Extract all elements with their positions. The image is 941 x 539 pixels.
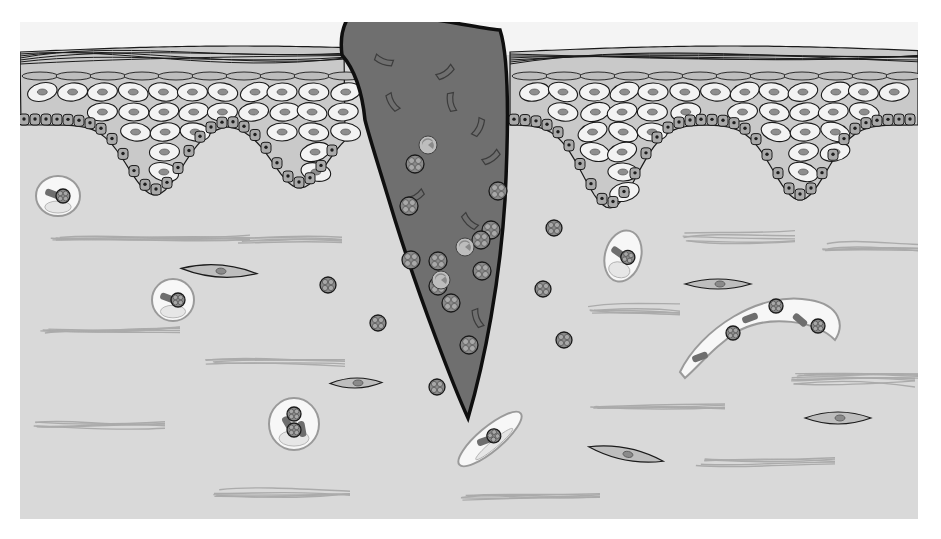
vacuole [160,305,185,318]
neutrophil-lobe [481,240,487,246]
neutrophil [370,315,386,331]
basal-nucleus [143,183,146,186]
basal-nucleus [319,164,322,167]
basal-nucleus [545,123,548,126]
basal-nucleus [644,151,647,154]
granular-cell [784,72,820,80]
neutrophil-lobe [771,306,776,311]
basal-nucleus [567,143,570,146]
neutrophil [429,252,447,270]
neutrophil-lobe [728,333,733,338]
neutrophil-lobe [173,295,178,300]
basal-nucleus [88,121,91,124]
macrophage [152,279,194,321]
keratinocyte-nucleus [97,89,107,95]
neutrophil-lobe [63,191,68,196]
keratinocyte-nucleus [771,129,781,135]
basal-nucleus [264,146,267,149]
neutrophil [320,277,336,293]
basal-nucleus [99,127,102,130]
keratinocyte-nucleus [128,89,138,95]
basal-nucleus [44,117,47,120]
basal-nucleus [710,118,713,121]
basal-nucleus [611,200,614,203]
neutrophil-lobe [409,164,415,170]
basal-nucleus [897,117,900,120]
basal-nucleus [842,137,845,140]
basal-nucleus [55,117,58,120]
basal-nucleus [688,118,691,121]
neutrophil-lobe [403,200,409,206]
neutrophil-lobe [289,409,294,414]
granular-cell [580,72,616,80]
neutrophil-lobe [558,334,563,339]
neutrophil-lobe [818,326,823,331]
histology-diagram [0,0,941,539]
keratinocyte-nucleus [249,109,259,115]
keratinocyte-nucleus [588,129,598,135]
keratinocyte-nucleus [277,129,287,135]
neutrophil-lobe [328,285,333,290]
basal-nucleus [831,153,834,156]
keratinocyte-nucleus [740,89,750,95]
neutrophil-lobe [378,317,383,322]
granular-cell [56,72,92,80]
neutrophil-lobe [733,328,738,333]
neutrophil [400,197,418,215]
neutrophil-lobe [409,158,415,164]
macrophage [269,398,319,450]
granular-cell [260,72,296,80]
neutrophil-lobe [813,326,818,331]
granular-cell [90,72,126,80]
keratinocyte-nucleus [310,149,320,155]
fibroblast-nucleus [835,415,845,421]
basal-nucleus [22,117,25,120]
neutrophil-lobe [548,228,553,233]
neutrophil-lobe [537,283,542,288]
basal-nucleus [655,135,658,138]
basal-nucleus [231,120,234,123]
granular-cell [22,72,58,80]
granular-cell [192,72,228,80]
neutrophil-lobe [554,228,559,233]
neutrophil-lobe [491,224,497,230]
neutrophil-lobe [294,425,299,430]
keratinocyte-nucleus [738,109,748,115]
neutrophil-lobe [415,158,421,164]
keratinocyte-nucleus [97,109,107,115]
granular-cell [226,72,262,80]
neutrophil-lobe [372,317,377,322]
neutrophil-lobe [481,234,487,240]
degenerating-cell [419,136,437,154]
neutrophil [406,155,424,173]
skin-ulcer-illustration [0,0,941,539]
keratinocyte-nucleus [338,109,348,115]
neutrophil-lobe [322,279,327,284]
neutrophil-lobe [475,234,481,240]
basal-nucleus [121,152,124,155]
granular-cell [716,72,752,80]
degenerating-cell [456,238,474,256]
neutrophil [287,407,301,421]
basal-nucleus [776,171,779,174]
keratinocyte-nucleus [37,89,47,95]
basal-nucleus [809,186,812,189]
keratinocyte-nucleus [711,89,721,95]
basal-nucleus [798,192,801,195]
keratinocyte-nucleus [68,89,78,95]
neutrophil [56,189,70,203]
basal-nucleus [743,127,746,130]
keratinocyte-nucleus [681,109,691,115]
neutrophil-lobe [485,224,491,230]
basal-nucleus [633,171,636,174]
keratinocyte-nucleus [307,109,317,115]
fibroblast-nucleus [353,380,363,386]
basal-nucleus [666,125,669,128]
basal-nucleus [732,121,735,124]
keratinocyte-nucleus [309,89,319,95]
neutrophil-lobe [451,303,457,309]
keratinocyte-nucleus [680,89,690,95]
keratinocyte-nucleus [558,109,568,115]
neutrophil-lobe [289,425,294,430]
basal-nucleus [886,118,889,121]
